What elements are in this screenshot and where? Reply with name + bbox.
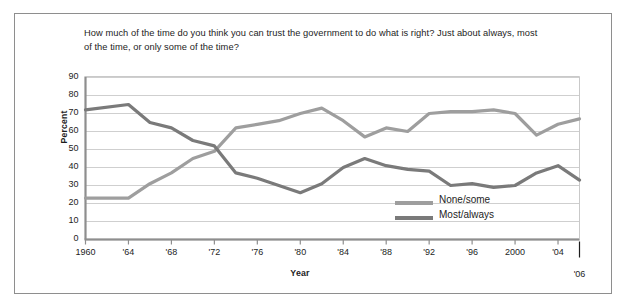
- x-tick-label: '64: [108, 247, 148, 257]
- y-tick-label: 50: [53, 143, 79, 153]
- x-tick-label-final: '06: [560, 269, 600, 279]
- x-tick-label: '76: [237, 247, 277, 257]
- y-tick-label: 80: [53, 89, 79, 99]
- legend-swatch: [395, 201, 433, 205]
- x-tick-label: '92: [409, 247, 449, 257]
- x-tick-label: '88: [366, 247, 406, 257]
- x-tick-label: '80: [280, 247, 320, 257]
- x-tick-label: '04: [538, 247, 578, 257]
- y-tick-label: 0: [53, 233, 79, 243]
- x-tick-label: '84: [323, 247, 363, 257]
- series-line-none-some: [86, 108, 580, 198]
- y-tick-label: 20: [53, 197, 79, 207]
- x-tick-label: '72: [194, 247, 234, 257]
- legend-label: None/some: [439, 194, 490, 205]
- x-tick-label: 1960: [66, 247, 106, 257]
- x-tick-label: '68: [151, 247, 191, 257]
- y-tick-label: 90: [53, 71, 79, 81]
- y-tick-label: 60: [53, 125, 79, 135]
- y-tick-label: 40: [53, 161, 79, 171]
- chart-svg: [0, 0, 627, 307]
- y-tick-label: 10: [53, 215, 79, 225]
- legend-label: Most/always: [439, 209, 494, 220]
- x-tick-label: '96: [452, 247, 492, 257]
- legend-swatch: [395, 216, 433, 220]
- plot-area: [0, 0, 627, 307]
- y-tick-label: 70: [53, 107, 79, 117]
- x-tick-label: 2000: [495, 247, 535, 257]
- y-tick-label: 30: [53, 179, 79, 189]
- chart-figure: How much of the time do you think you ca…: [0, 0, 627, 307]
